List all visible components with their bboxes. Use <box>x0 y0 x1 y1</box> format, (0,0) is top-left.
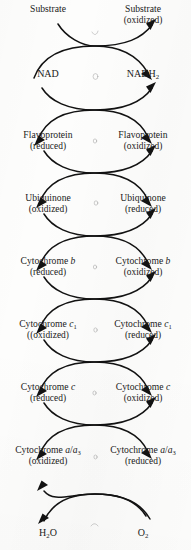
node-cytochrome-c-left: Cytochrome c (reduced) <box>0 382 96 403</box>
node-substrate-left: Substrate <box>0 4 96 15</box>
node-ubiquinone-left: Ubiquinone (oxidized) <box>0 193 96 214</box>
node-label: O2 <box>95 527 191 538</box>
node-label: Flavoprotein <box>95 130 191 141</box>
node-label: Cytochrome a/a3 <box>0 445 96 456</box>
etc-diagram-figure: Substrate Substrate (oxidized) NAD NADH2… <box>0 0 191 550</box>
node-label: Cytochrome a/a3 <box>95 445 191 456</box>
node-cytochrome-c-right: Cytochrome c (oxidized) <box>95 382 191 403</box>
node-label: Substrate <box>95 4 191 15</box>
node-label: H2O <box>0 527 96 538</box>
node-state: (oxidized) <box>0 456 96 467</box>
node-state: (oxidized) <box>95 15 191 26</box>
node-flavoprotein-right: Flavoprotein (oxidized) <box>95 130 191 151</box>
node-state: (reduced) <box>0 267 96 278</box>
node-cytochrome-b-left: Cytochrome b (reduced) <box>0 256 96 277</box>
node-label: Cytochrome b <box>0 256 96 267</box>
node-label: Ubiquinone <box>95 193 191 204</box>
node-state: (oxidized) <box>95 267 191 278</box>
node-label: NAD <box>0 68 96 79</box>
node-label: Cytochrome c <box>95 382 191 393</box>
node-state: (reduced) <box>95 330 191 341</box>
node-ubiquinone-right: Ubiquinone (reduced) <box>95 193 191 214</box>
node-cytochrome-c1-right: Cytochrome c1 (reduced) <box>95 319 191 340</box>
node-state: ((oxidized) <box>0 330 96 341</box>
node-cytochrome-c1-left: Cytochrome c1 ((oxidized) <box>0 319 96 340</box>
node-state: (oxidized) <box>0 204 96 215</box>
node-label: Cytochrome c1 <box>0 319 96 330</box>
node-label: Cytochrome c <box>0 382 96 393</box>
node-state: (oxidized) <box>95 393 191 404</box>
node-flavoprotein-left: Flavoprotein (reduced) <box>0 130 96 151</box>
node-state: (oxidized) <box>95 141 191 152</box>
node-water-left: H2O <box>0 527 96 538</box>
node-cytochrome-b-right: Cytochrome b (oxidized) <box>95 256 191 277</box>
node-label: Substrate <box>0 4 96 15</box>
node-label: Flavoprotein <box>0 130 96 141</box>
node-label: Cytochrome b <box>95 256 191 267</box>
node-substrate-right: Substrate (oxidized) <box>95 4 191 25</box>
node-cytochrome-aa3-left: Cytochrome a/a3 (oxidized) <box>0 445 96 466</box>
node-state: (reduced) <box>95 456 191 467</box>
node-nad-left: NAD <box>0 68 96 79</box>
node-label: Ubiquinone <box>0 193 96 204</box>
node-state: (reduced) <box>95 204 191 215</box>
node-nadh2-right: NADH2 <box>95 68 191 79</box>
node-label: Cytochrome c1 <box>95 319 191 330</box>
label-layer: Substrate Substrate (oxidized) NAD NADH2… <box>0 0 191 550</box>
node-label: NADH2 <box>95 68 191 79</box>
node-state: (reduced) <box>0 393 96 404</box>
node-oxygen-right: O2 <box>95 527 191 538</box>
node-cytochrome-aa3-right: Cytochrome a/a3 (reduced) <box>95 445 191 466</box>
node-state: (reduced) <box>0 141 96 152</box>
